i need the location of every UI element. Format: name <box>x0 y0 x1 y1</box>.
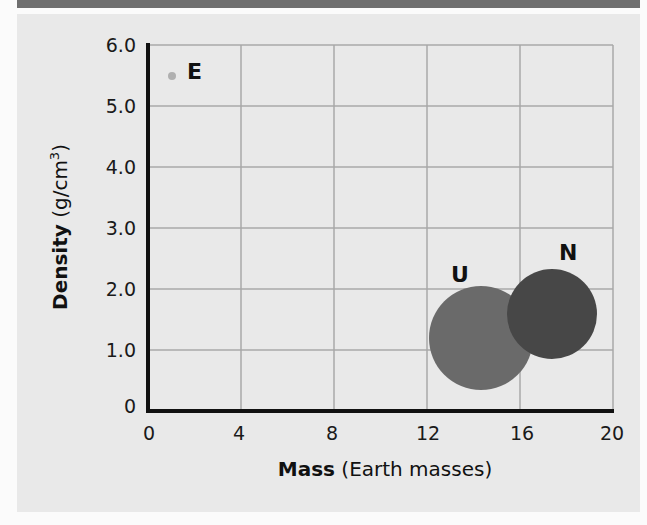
y-tick-labels: 6.0 5.0 4.0 3.0 2.0 1.0 0 <box>106 34 136 417</box>
y-tick: 2.0 <box>106 278 136 300</box>
y-axis-label-bold: Density <box>48 224 72 310</box>
x-tick: 8 <box>326 422 338 444</box>
y-axis-label-unit: (g/cm <box>48 160 72 224</box>
y-tick: 3.0 <box>106 217 136 239</box>
y-tick: 0 <box>124 395 136 417</box>
point-neptune <box>507 269 597 359</box>
y-tick: 1.0 <box>106 339 136 361</box>
x-axis-label: Mass (Earth masses) <box>278 457 492 481</box>
x-tick: 4 <box>233 422 245 444</box>
x-tick: 20 <box>600 422 624 444</box>
point-earth <box>168 72 176 80</box>
y-tick: 6.0 <box>106 34 136 56</box>
x-tick: 16 <box>510 422 534 444</box>
y-axis-label: Density (g/cm3) <box>47 144 72 310</box>
y-axis-label-sup: 3 <box>47 152 62 160</box>
x-tick-labels: 0 4 8 12 16 20 <box>143 422 624 444</box>
x-axis-label-bold: Mass <box>278 457 335 481</box>
scatter-chart: E U N 6.0 5.0 4.0 3.0 2.0 1.0 0 0 4 8 12… <box>0 0 647 525</box>
point-label-u: U <box>451 262 469 287</box>
y-axis-label-close: ) <box>48 144 72 152</box>
x-tick: 12 <box>416 422 440 444</box>
y-tick: 4.0 <box>106 156 136 178</box>
x-axis-label-unit: (Earth masses) <box>335 457 492 481</box>
y-tick: 5.0 <box>106 95 136 117</box>
point-label-n: N <box>559 240 577 265</box>
point-label-e: E <box>187 59 202 84</box>
x-tick: 0 <box>143 422 155 444</box>
